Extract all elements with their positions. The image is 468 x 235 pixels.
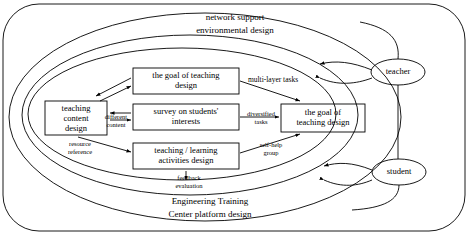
label-teacher: teacher bbox=[371, 67, 425, 77]
connector-teacher-out bbox=[320, 78, 372, 83]
label-self-help-group-line2: group bbox=[250, 149, 292, 156]
title-bottom-line1: Engineering Training bbox=[130, 196, 290, 206]
label-resource-reference-line1: resource bbox=[57, 140, 103, 147]
label-resource-reference-line2: reference bbox=[57, 148, 103, 155]
connector-teacher-top bbox=[360, 22, 398, 59]
title-bottom-line2: Center platform design bbox=[130, 209, 290, 219]
title-top-line1: network support bbox=[160, 12, 310, 22]
label-different-content-line2: content bbox=[97, 121, 135, 128]
label-survey-line2: interests bbox=[133, 117, 239, 127]
label-self-help-group-line1: self-help bbox=[250, 141, 292, 148]
label-goal-left-line2: design bbox=[133, 81, 239, 91]
connector-content-to-goal bbox=[100, 86, 131, 101]
label-goal-right-line2: teaching design bbox=[281, 118, 365, 128]
connector-student-in bbox=[324, 163, 372, 170]
title-top-line2: environmental design bbox=[160, 25, 310, 35]
label-feedback-evaluation-line2: evaluation bbox=[166, 182, 212, 189]
label-activities-line2: activities design bbox=[133, 156, 239, 166]
label-multi-layer-tasks: multi-layer tasks bbox=[240, 76, 306, 85]
connector-goal-to-content bbox=[96, 78, 131, 96]
connector-student-out bbox=[324, 180, 372, 185]
connector-student-bottom bbox=[352, 185, 399, 210]
diagram-canvas: network support environmental design Eng… bbox=[0, 0, 468, 235]
label-feedback-evaluation-line1: feedback bbox=[166, 174, 212, 181]
label-different-content-line1: different bbox=[97, 113, 135, 120]
label-diversified-tasks-line1: diversified bbox=[240, 110, 282, 117]
label-diversified-tasks-line2: tasks bbox=[240, 118, 282, 125]
label-student: student bbox=[372, 167, 426, 177]
